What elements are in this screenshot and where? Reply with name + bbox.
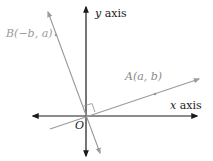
point-a-label: A(a, b): [124, 70, 162, 83]
point-a-dot: [154, 93, 157, 96]
origin-label: O: [75, 119, 84, 132]
x-axis-label: x axis: [170, 99, 202, 112]
point-b-label: B(−b, a): [5, 27, 52, 40]
y-axis-label: y axis: [94, 7, 127, 20]
point-b-dot: [55, 34, 58, 37]
perpendicular-lines-diagram: y axis x axis O B(−b, a) A(a, b): [0, 0, 213, 161]
right-angle-marker: [84, 104, 96, 113]
line-ob: [48, 12, 100, 153]
